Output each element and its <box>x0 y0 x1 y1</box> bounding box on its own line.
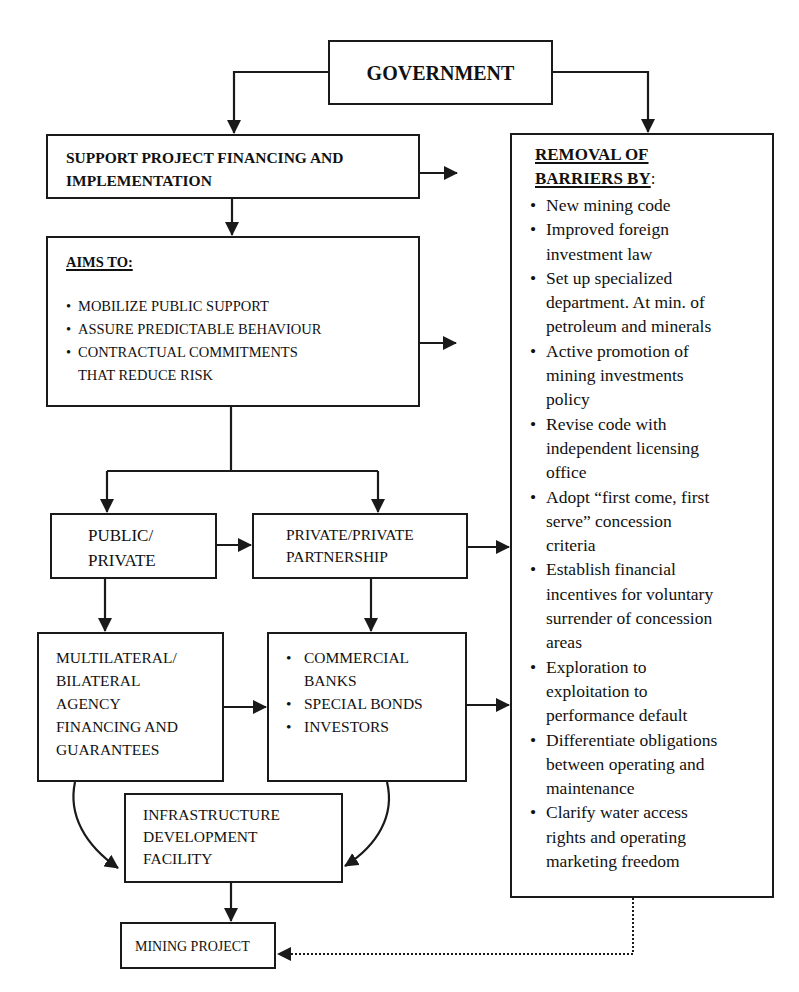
barrier-item: •Adopt “first come, first serve” concess… <box>530 485 717 558</box>
barriers-list: •New mining code •Improved foreign inves… <box>530 193 717 873</box>
private-private-label: PRIVATE/PRIVATE PARTNERSHIP <box>286 524 414 568</box>
funding-item: •SPECIAL BONDS <box>286 692 423 715</box>
aims-item: •MOBILIZE PUBLIC SUPPORT <box>66 295 321 318</box>
public-private-box: PUBLIC/ PRIVATE <box>50 513 217 579</box>
government-box: GOVERNMENT <box>328 40 553 105</box>
funding-item: •INVESTORS <box>286 715 423 738</box>
bullet-icon: • <box>530 655 536 679</box>
private-private-partnership-box: PRIVATE/PRIVATE PARTNERSHIP <box>252 513 468 579</box>
bullet-icon: • <box>530 800 536 824</box>
barrier-item: •Revise code with independent licensing … <box>530 412 717 485</box>
bullet-icon: • <box>286 646 291 669</box>
support-financing-box: SUPPORT PROJECT FINANCING AND IMPLEMENTA… <box>46 134 420 199</box>
infrastructure-label: INFRASTRUCTURE DEVELOPMENT FACILITY <box>143 804 280 870</box>
bullet-icon: • <box>286 715 291 738</box>
funding-sources-box: •COMMERCIAL BANKS •SPECIAL BONDS •INVEST… <box>267 632 467 782</box>
mining-project-box: MINING PROJECT <box>120 922 276 969</box>
public-private-label: PUBLIC/ PRIVATE <box>88 523 156 573</box>
aims-item: •CONTRACTUAL COMMITMENTS THAT REDUCE RIS… <box>66 341 321 387</box>
funding-item: •COMMERCIAL BANKS <box>286 646 423 692</box>
aims-item: •ASSURE PREDICTABLE BEHAVIOUR <box>66 318 321 341</box>
barrier-item: •Differentiate obligations between opera… <box>530 728 717 801</box>
barrier-item: •New mining code <box>530 193 717 217</box>
barrier-item: •Set up specialized department. At min. … <box>530 266 717 339</box>
bullet-icon: • <box>530 485 536 509</box>
funding-sources-list: •COMMERCIAL BANKS •SPECIAL BONDS •INVEST… <box>286 646 423 738</box>
infrastructure-facility-box: INFRASTRUCTURE DEVELOPMENT FACILITY <box>124 793 343 883</box>
mining-project-label: MINING PROJECT <box>135 939 250 955</box>
bullet-icon: • <box>66 295 71 318</box>
barrier-item: •Improved foreign investment law <box>530 217 717 266</box>
multilateral-agency-box: MULTILATERAL/ BILATERAL AGENCY FINANCING… <box>37 632 224 782</box>
barrier-item: •Active promotion of mining investments … <box>530 339 717 412</box>
bullet-icon: • <box>66 341 71 364</box>
aims-heading: AIMS TO: <box>66 254 133 271</box>
barriers-heading: REMOVAL OF BARRIERS BY: <box>535 143 655 191</box>
bullet-icon: • <box>530 557 536 581</box>
bullet-icon: • <box>530 728 536 752</box>
bullet-icon: • <box>286 692 291 715</box>
support-financing-label: SUPPORT PROJECT FINANCING AND IMPLEMENTA… <box>66 146 343 192</box>
bullet-icon: • <box>530 217 536 241</box>
barrier-item: •Establish financial incentives for volu… <box>530 557 717 654</box>
government-label: GOVERNMENT <box>330 62 551 85</box>
bullet-icon: • <box>530 412 536 436</box>
bullet-icon: • <box>530 339 536 363</box>
removal-of-barriers-box: REMOVAL OF BARRIERS BY: •New mining code… <box>510 133 774 898</box>
bullet-icon: • <box>66 318 71 341</box>
bullet-icon: • <box>530 266 536 290</box>
aims-box: AIMS TO: •MOBILIZE PUBLIC SUPPORT •ASSUR… <box>46 236 420 407</box>
barrier-item: •Exploration to exploitation to performa… <box>530 655 717 728</box>
multilateral-label: MULTILATERAL/ BILATERAL AGENCY FINANCING… <box>56 646 178 761</box>
barrier-item: •Clarify water access rights and operati… <box>530 800 717 873</box>
aims-list: •MOBILIZE PUBLIC SUPPORT •ASSURE PREDICT… <box>66 295 321 387</box>
bullet-icon: • <box>530 193 536 217</box>
